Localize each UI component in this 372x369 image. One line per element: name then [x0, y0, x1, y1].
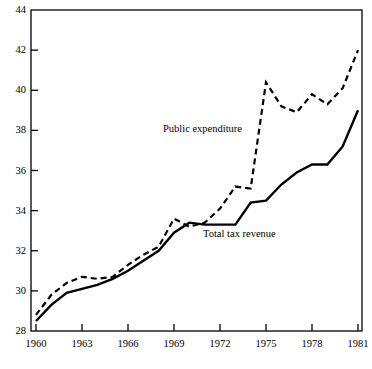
- x-tick-label: 1960: [14, 339, 58, 350]
- y-tick-label: 34: [0, 206, 26, 217]
- y-tick-label: 42: [0, 45, 26, 56]
- y-tick-label: 32: [0, 246, 26, 257]
- x-tick-label: 1963: [60, 339, 104, 350]
- annotation-public-expenditure: Public expenditure: [163, 124, 242, 135]
- x-tick-label: 1981: [336, 339, 372, 350]
- x-tick-label: 1975: [244, 339, 288, 350]
- y-tick-label: 44: [0, 5, 26, 16]
- y-tick-label: 38: [0, 125, 26, 136]
- x-tick-label: 1978: [290, 339, 334, 350]
- annotation-total-tax-revenue: Total tax revenue: [203, 229, 276, 240]
- y-tick-label: 28: [0, 326, 26, 337]
- x-tick-label: 1969: [152, 339, 196, 350]
- y-tick-label: 36: [0, 166, 26, 177]
- chart-container: 283032343638404244 196019631966196919721…: [0, 0, 372, 369]
- y-tick-label: 30: [0, 286, 26, 297]
- plot-frame: [31, 10, 362, 331]
- y-tick-label: 40: [0, 85, 26, 96]
- x-tick-label: 1972: [198, 339, 242, 350]
- x-tick-label: 1966: [106, 339, 150, 350]
- chart-plot-area: [0, 0, 372, 369]
